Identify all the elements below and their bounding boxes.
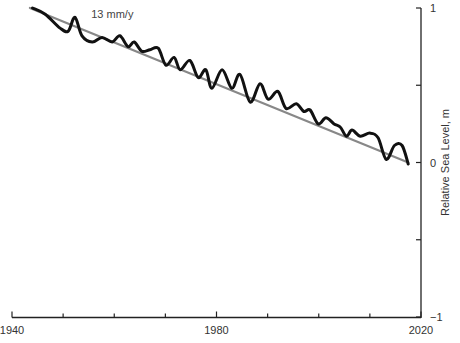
y-axis-title: Relative Sea Level, m	[439, 109, 451, 216]
trend-rate-annotation: 13 mm/y	[91, 8, 134, 20]
x-tick-label: 2020	[409, 324, 433, 336]
x-tick-label: 1980	[204, 324, 228, 336]
y-tick-label: 1	[430, 2, 436, 14]
sea-level-chart: 13 mm/y 194019802020 10−1 Relative Sea L…	[0, 0, 460, 343]
x-tick-label: 1940	[0, 324, 24, 336]
trend-line	[30, 8, 408, 163]
y-tick-label: 0	[430, 157, 436, 169]
plot-area: 13 mm/y	[30, 8, 408, 164]
x-axis: 194019802020	[0, 312, 433, 337]
y-tick-label: −1	[430, 311, 443, 323]
